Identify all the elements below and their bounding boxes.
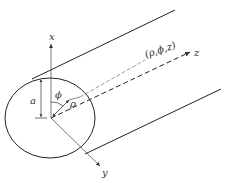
cylinder	[5, 10, 221, 158]
x-axis-label: x	[49, 31, 55, 42]
y-axis-label: y	[101, 167, 108, 178]
phi-label: ϕ	[55, 89, 62, 100]
radius-dimension	[35, 80, 47, 118]
cylinder-top-edge	[32, 10, 175, 79]
cylinder-bottom-edge	[85, 89, 221, 154]
rho-label: ρ	[69, 98, 76, 109]
radius-a-label: a	[30, 95, 36, 106]
y-axis	[51, 118, 100, 166]
cylinder-coordinate-diagram: x y z a ϕ ρ (ρ,ϕ,z)	[0, 0, 227, 183]
phi-arc	[51, 102, 63, 106]
point-projection-line	[80, 60, 145, 97]
z-axis-label: z	[193, 47, 200, 58]
cylinder-cross-section	[5, 78, 95, 158]
point-coordinate-label: (ρ,ϕ,z)	[143, 39, 177, 59]
